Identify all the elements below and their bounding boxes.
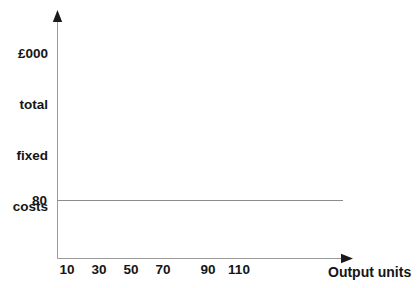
y-axis-arrowhead	[53, 10, 62, 22]
x-axis-arrowhead	[341, 254, 353, 264]
x-tick-label-70: 70	[148, 262, 178, 277]
y-axis-label-line-1: £000	[0, 45, 48, 62]
chart-figure: £000 total fixed costs 80 10 30 50 70 90…	[0, 0, 418, 288]
chart-canvas	[0, 0, 418, 288]
x-tick-label-50: 50	[116, 262, 146, 277]
y-tick-label-80: 80	[0, 193, 47, 208]
x-axis-label: Output units	[328, 264, 411, 280]
x-tick-label-10: 10	[52, 262, 82, 277]
x-tick-label-30: 30	[84, 262, 114, 277]
y-axis-label-line-3: fixed	[0, 147, 48, 164]
x-tick-label-110: 110	[224, 262, 254, 277]
y-axis-label: £000 total fixed costs	[0, 11, 48, 249]
y-axis-label-line-2: total	[0, 96, 48, 113]
x-tick-label-90: 90	[193, 262, 223, 277]
